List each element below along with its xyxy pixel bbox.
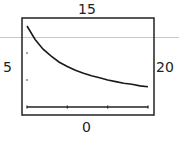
ymax-label: 15: [78, 2, 96, 16]
plot-frame: [22, 18, 154, 115]
xmax-label: 20: [156, 60, 174, 74]
ymin-label: 0: [82, 120, 91, 134]
function-curve: [27, 26, 148, 87]
xmin-label: 5: [3, 60, 12, 74]
y-axis-tick-dots: [26, 52, 28, 81]
